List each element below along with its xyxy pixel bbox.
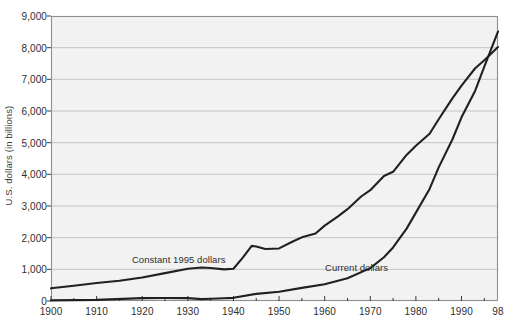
chart-figure: U.S. dollars (in billions) 9,0008,0007,0… [0,0,512,331]
plot-area [0,0,512,331]
x-axis-tick-label: 1940 [222,306,245,317]
x-axis-tick-label: 1900 [40,306,63,317]
x-axis-tick-label: 1950 [268,306,291,317]
x-axis-tick-label: 1920 [131,306,154,317]
x-axis-tick-label: 1910 [85,306,108,317]
x-axis-tick-label: 1930 [177,306,200,317]
x-axis-tick-label: 98 [492,306,503,317]
x-axis-tick-label: 1980 [405,306,428,317]
y-axis-ticks [47,16,51,301]
plot-background [51,16,498,301]
series-label-1: Constant 1995 dollars [132,254,225,265]
x-axis-tick-label: 1990 [450,306,473,317]
x-axis-tick-label: 1960 [313,306,336,317]
x-axis-tick-label: 1970 [359,306,382,317]
x-axis-tick-labels: 1900191019201930194019501960197019801990… [0,306,512,328]
series-label-2: Current dollars [325,262,388,273]
